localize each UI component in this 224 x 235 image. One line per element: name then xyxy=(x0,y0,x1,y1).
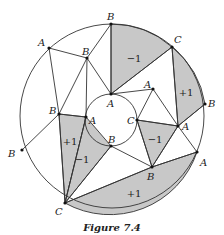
vertex-dot xyxy=(170,45,173,48)
vertex-dot xyxy=(47,46,50,49)
figure-caption: Figure 7.4 xyxy=(82,222,141,233)
vertex-dot xyxy=(63,201,66,204)
vertex-label: A xyxy=(181,121,189,132)
vertex-label: B xyxy=(81,46,89,57)
region-value: +1 xyxy=(63,136,78,147)
vertex-dot xyxy=(109,22,112,25)
vertex-label: B xyxy=(207,98,215,109)
vertex-label: C xyxy=(127,115,135,126)
vertex-label: B xyxy=(48,105,56,116)
vertex-dot xyxy=(20,148,23,151)
region-value: −1 xyxy=(75,154,90,165)
figure-diagram: BCBACBAACBABABAB −1+1+1−1−1+1 Figure 7.4 xyxy=(0,0,224,235)
vertex-label: A xyxy=(88,115,96,126)
vertex-dot xyxy=(176,124,179,127)
vertex-label: A xyxy=(37,37,45,48)
vertex-label: B xyxy=(107,134,115,145)
region-value: +1 xyxy=(179,87,194,98)
vertex-label: B xyxy=(146,171,154,182)
region-value: +1 xyxy=(127,188,142,199)
vertex-dot xyxy=(57,112,60,115)
vertex-label: C xyxy=(174,34,182,45)
region-value: −1 xyxy=(148,134,163,145)
vertex-dot xyxy=(203,102,206,105)
vertex-label: B xyxy=(7,148,15,159)
vertex-dot xyxy=(150,165,153,168)
vertex-dot xyxy=(109,92,112,95)
vertex-dot xyxy=(135,118,138,121)
vertex-dot xyxy=(151,87,154,90)
vertex-label: A xyxy=(106,98,114,109)
vertex-label: C xyxy=(55,206,63,217)
vertex-label: A xyxy=(199,157,207,168)
vertex-label: B xyxy=(106,11,114,22)
vertex-label: A xyxy=(143,79,151,90)
vertex-dot xyxy=(84,115,87,118)
region-value: −1 xyxy=(127,53,142,64)
region-top-minus xyxy=(111,24,172,94)
vertex-dot xyxy=(195,150,198,153)
